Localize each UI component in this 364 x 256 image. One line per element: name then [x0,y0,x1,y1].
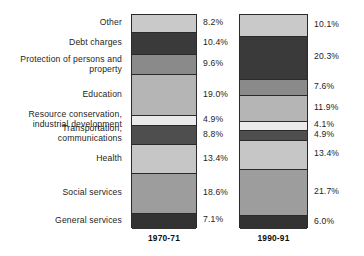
segment-value-label: 7.1% [203,215,223,225]
bar-segment [240,141,307,170]
segment-value-label: 13.4% [314,149,339,159]
segment-value-label: 18.6% [203,188,228,198]
bar-segment [240,170,307,216]
bar-segment [132,145,196,174]
bar-segment [132,214,196,229]
category-label-column: OtherDebt chargesProtection of persons a… [0,14,126,228]
segment-value-label: 4.9% [314,130,334,140]
bar-segment [132,33,196,55]
x-tick-label-1970-71: 1970-71 [131,233,197,243]
segment-value-label: 20.3% [314,52,339,62]
segment-value-label: 10.1% [314,20,339,30]
category-label: Other [100,18,122,28]
value-label-column-1990-91: 10.1%20.3%7.6%11.9%4.1%4.9%13.4%21.7%6.0… [314,14,364,228]
x-tick-label-1990-91: 1990-91 [239,233,308,243]
bar-stack-1970-71 [131,14,197,228]
bar-stack-1990-91 [239,14,308,228]
bar-segment [132,174,196,214]
segment-value-label: 8.8% [203,130,223,140]
bar-segment [132,116,196,126]
segment-value-label: 13.4% [203,154,228,164]
category-label: General services [55,216,122,226]
category-label: Debt charges [69,38,122,48]
segment-value-label: 21.7% [314,187,339,197]
segment-value-label: 4.9% [203,115,223,125]
bar-segment [240,37,307,80]
segment-value-label: 9.6% [203,59,223,69]
segment-value-label: 10.4% [203,38,228,48]
bar-segment [240,15,307,37]
segment-value-label: 6.0% [314,217,334,227]
bar-segment [132,75,196,116]
category-label: Transportation, communications [58,124,122,144]
category-label: Health [96,154,122,164]
bar-segment [240,131,307,141]
category-label: Protection of persons and property [20,55,122,75]
bar-segment [132,15,196,33]
bar-segment [132,55,196,76]
bar-segment [132,126,196,145]
segment-value-label: 19.0% [203,90,228,100]
segment-value-label: 8.2% [203,18,223,28]
category-label: Social services [62,188,122,198]
bar-segment [240,80,307,96]
segment-value-label: 7.6% [314,82,334,92]
bar-segment [240,96,307,121]
bar-column-1990-91 [239,14,308,228]
bar-segment [240,122,307,131]
stacked-bar-chart: OtherDebt chargesProtection of persons a… [0,0,364,256]
segment-value-label: 11.9% [314,103,338,113]
bar-column-1970-71 [131,14,197,228]
bar-segment [240,216,307,229]
category-label: Education [82,90,122,100]
